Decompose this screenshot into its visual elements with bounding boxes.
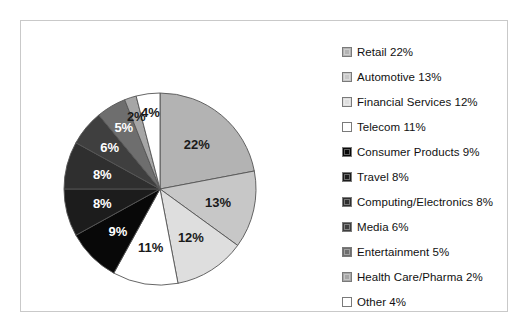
legend-item[interactable]: Automotive 13% xyxy=(342,64,507,89)
legend-item-label: Health Care/Pharma 2% xyxy=(357,271,483,283)
pie-slice-value-label: 6% xyxy=(100,140,119,155)
legend-item[interactable]: Telecom 11% xyxy=(342,114,507,139)
legend-item[interactable]: Media 6% xyxy=(342,214,507,239)
legend-swatch-icon xyxy=(342,147,352,157)
pie-slice-value-label: 22% xyxy=(184,137,210,152)
legend-item[interactable]: Entertainment 5% xyxy=(342,239,507,264)
legend-swatch-icon xyxy=(342,272,352,282)
legend-item[interactable]: Retail 22% xyxy=(342,39,507,64)
pie-slice-value-label: 9% xyxy=(109,224,128,239)
legend-item-label: Other 4% xyxy=(357,296,406,308)
legend-item-label: Telecom 11% xyxy=(357,121,426,133)
legend-swatch-icon xyxy=(342,72,352,82)
legend-item[interactable]: Financial Services 12% xyxy=(342,89,507,114)
chart-frame: 22%13%12%11%9%8%8%6%5%2%4% Retail 22%Aut… xyxy=(20,20,508,312)
legend-item[interactable]: Other 4% xyxy=(342,289,507,314)
pie-chart-svg: 22%13%12%11%9%8%8%6%5%2%4% xyxy=(21,21,351,311)
pie-slice-value-label: 12% xyxy=(178,230,204,245)
legend-item[interactable]: Travel 8% xyxy=(342,164,507,189)
legend-item[interactable]: Computing/Electronics 8% xyxy=(342,189,507,214)
pie-slices-group xyxy=(64,93,256,285)
legend-item-label: Financial Services 12% xyxy=(357,96,478,108)
legend-item-label: Media 6% xyxy=(357,221,409,233)
legend-swatch-icon xyxy=(342,172,352,182)
pie-slice-value-label: 8% xyxy=(93,167,112,182)
legend-swatch-icon xyxy=(342,197,352,207)
pie-slice-value-label: 13% xyxy=(205,195,231,210)
pie-slice-value-label: 8% xyxy=(93,196,112,211)
legend-item[interactable]: Health Care/Pharma 2% xyxy=(342,264,507,289)
chart-legend: Retail 22%Automotive 13%Financial Servic… xyxy=(342,39,507,314)
legend-swatch-icon xyxy=(342,122,352,132)
pie-slice-value-label: 11% xyxy=(138,240,164,255)
legend-swatch-icon xyxy=(342,247,352,257)
pie-slice-value-label: 4% xyxy=(141,105,160,120)
pie-chart-plot-area: 22%13%12%11%9%8%8%6%5%2%4% xyxy=(21,21,351,311)
legend-swatch-icon xyxy=(342,222,352,232)
legend-swatch-icon xyxy=(342,47,352,57)
legend-swatch-icon xyxy=(342,297,352,307)
legend-item-label: Consumer Products 9% xyxy=(357,146,479,158)
legend-item-label: Computing/Electronics 8% xyxy=(357,196,493,208)
legend-swatch-icon xyxy=(342,97,352,107)
legend-item-label: Entertainment 5% xyxy=(357,246,449,258)
legend-item-label: Retail 22% xyxy=(357,46,413,58)
legend-item[interactable]: Consumer Products 9% xyxy=(342,139,507,164)
legend-item-label: Automotive 13% xyxy=(357,71,441,83)
legend-item-label: Travel 8% xyxy=(357,171,409,183)
